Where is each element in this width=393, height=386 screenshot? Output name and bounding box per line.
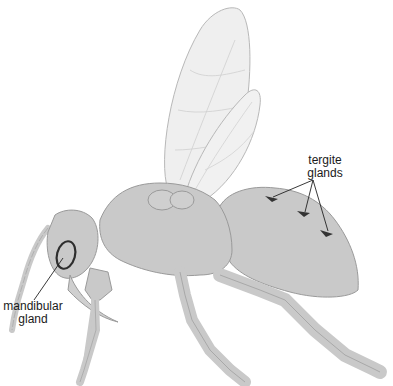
label-line: glands [297,167,353,180]
label-line: gland [2,313,64,326]
mandibular-gland-pointer [34,258,63,300]
middle-leg [180,272,245,382]
tergite-glands-label: tergite glands [297,154,353,180]
mandibular-gland-label: mandibular gland [2,300,64,326]
wasp-illustration [0,0,393,386]
wasp-anatomy-diagram: tergite glands mandibular gland [0,0,393,386]
